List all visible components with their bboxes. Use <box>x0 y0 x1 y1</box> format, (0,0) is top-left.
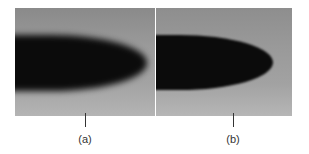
pointer-line-a <box>85 113 86 127</box>
dark-tip-shape-sharp <box>156 35 273 90</box>
image-panel-b <box>156 8 292 116</box>
image-panel-a <box>15 8 155 116</box>
panel-label-b: (b) <box>218 133 248 145</box>
panel-label-a: (a) <box>70 133 100 145</box>
dark-tip-shape-blurred <box>15 35 147 91</box>
pointer-line-b <box>233 113 234 127</box>
